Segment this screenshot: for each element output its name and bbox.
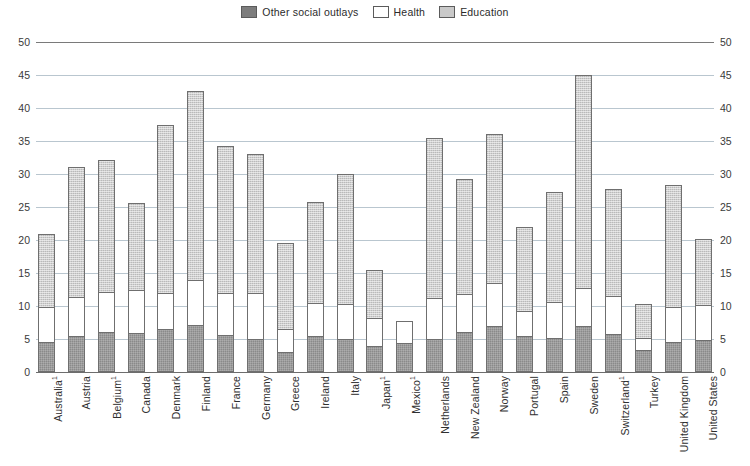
bar-mexico[interactable] <box>396 42 413 372</box>
bar-unitedstates[interactable] <box>695 42 712 372</box>
segment-other <box>38 342 55 372</box>
bar-portugal[interactable] <box>516 42 533 372</box>
segment-other <box>546 338 563 372</box>
bar-netherlands[interactable] <box>426 42 443 372</box>
bar-germany[interactable] <box>247 42 264 372</box>
segment-health <box>157 293 174 329</box>
segment-education <box>366 270 383 318</box>
footnote-marker: 1 <box>409 376 416 380</box>
segment-education <box>605 189 622 297</box>
bar-sweden[interactable] <box>575 42 592 372</box>
y-tick-right-5: 5 <box>720 334 742 345</box>
x-label-slot: Belgium1 <box>98 376 115 464</box>
y-tick-right-35: 35 <box>720 136 742 147</box>
x-label-slot: Japan1 <box>366 376 383 464</box>
bar-france[interactable] <box>217 42 234 372</box>
segment-other <box>486 326 503 372</box>
bar-spain[interactable] <box>546 42 563 372</box>
bar-switzerland[interactable] <box>605 42 622 372</box>
legend-swatch-health <box>373 6 389 18</box>
bar-denmark[interactable] <box>157 42 174 372</box>
x-label-slot: Turkey <box>635 376 652 464</box>
segment-health <box>98 292 115 333</box>
legend-item-education: Education <box>439 6 509 18</box>
x-label-italy: Italy <box>349 376 361 396</box>
y-tick-left-15: 15 <box>10 268 30 279</box>
legend-swatch-other-social-outlays <box>241 6 257 18</box>
y-tick-left-30: 30 <box>10 169 30 180</box>
x-label-portugal: Portugal <box>528 376 540 416</box>
x-label-finland: Finland <box>200 376 212 411</box>
x-label-slot: Austria <box>68 376 85 464</box>
segment-health <box>366 318 383 346</box>
y-tick-right-40: 40 <box>720 103 742 114</box>
footnote-marker: 1 <box>379 376 386 380</box>
segment-health <box>68 297 85 335</box>
x-label-newzealand: New Zealand <box>469 376 481 439</box>
y-tick-left-25: 25 <box>10 202 30 213</box>
segment-education <box>426 138 443 298</box>
segment-other <box>366 346 383 372</box>
segment-health <box>187 280 204 326</box>
x-label-unitedstates: United States <box>707 376 719 440</box>
plot-area <box>36 42 714 372</box>
stacked-bar-chart: Other social outlays Health Education 05… <box>0 0 750 466</box>
footnote-marker: 1 <box>110 376 117 380</box>
segment-education <box>68 167 85 297</box>
bar-group <box>36 42 714 372</box>
x-label-slot: Ireland <box>307 376 324 464</box>
segment-health <box>277 329 294 352</box>
y-tick-left-50: 50 <box>10 37 30 48</box>
x-label-germany: Germany <box>260 376 272 420</box>
segment-education <box>575 75 592 288</box>
segment-other <box>605 334 622 372</box>
y-tick-left-5: 5 <box>10 334 30 345</box>
bar-belgium[interactable] <box>98 42 115 372</box>
footnote-marker: 1 <box>51 376 58 380</box>
y-tick-right-15: 15 <box>720 268 742 279</box>
segment-other <box>337 339 354 372</box>
segment-other <box>307 336 324 372</box>
x-label-slot: Portugal <box>516 376 533 464</box>
x-label-slot: Switzerland1 <box>605 376 622 464</box>
x-label-belgium: Belgium1 <box>110 376 123 419</box>
segment-education <box>38 234 55 307</box>
bar-finland[interactable] <box>187 42 204 372</box>
x-label-switzerland: Switzerland1 <box>618 376 631 435</box>
x-label-unitedkingdom: United Kingdom <box>678 376 690 452</box>
bar-unitedkingdom[interactable] <box>665 42 682 372</box>
bar-canada[interactable] <box>128 42 145 372</box>
segment-education <box>456 179 473 295</box>
legend-item-health: Health <box>373 6 426 18</box>
bar-italy[interactable] <box>337 42 354 372</box>
segment-other <box>98 332 115 372</box>
bar-greece[interactable] <box>277 42 294 372</box>
segment-health <box>665 307 682 342</box>
bar-turkey[interactable] <box>635 42 652 372</box>
segment-education <box>486 134 503 283</box>
segment-health <box>695 305 712 339</box>
x-axis-labels: Australia1AustriaBelgium1CanadaDenmarkFi… <box>36 376 714 464</box>
segment-health <box>486 283 503 327</box>
segment-other <box>695 340 712 372</box>
bar-japan[interactable] <box>366 42 383 372</box>
segment-other <box>68 336 85 372</box>
segment-education <box>98 160 115 292</box>
bar-newzealand[interactable] <box>456 42 473 372</box>
x-label-france: France <box>230 376 242 409</box>
legend-swatch-education <box>439 6 455 18</box>
bar-austria[interactable] <box>68 42 85 372</box>
y-tick-right-25: 25 <box>720 202 742 213</box>
segment-health <box>516 311 533 337</box>
x-label-sweden: Sweden <box>588 376 600 415</box>
bar-australia[interactable] <box>38 42 55 372</box>
segment-health <box>307 303 324 336</box>
y-tick-left-45: 45 <box>10 70 30 81</box>
y-tick-right-30: 30 <box>720 169 742 180</box>
bar-norway[interactable] <box>486 42 503 372</box>
segment-education <box>187 91 204 280</box>
x-label-japan: Japan1 <box>379 376 392 409</box>
chart-legend: Other social outlays Health Education <box>0 6 750 18</box>
y-tick-right-20: 20 <box>720 235 742 246</box>
bar-ireland[interactable] <box>307 42 324 372</box>
